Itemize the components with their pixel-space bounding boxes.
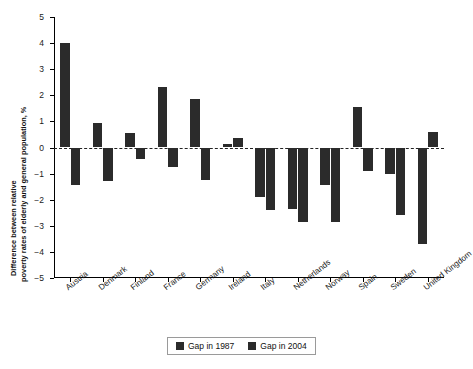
y-tick (50, 226, 54, 227)
y-tick (50, 252, 54, 253)
plot-area: 543210−1−2−3−4−5 (54, 17, 444, 278)
bar (396, 148, 406, 216)
y-tick-label: 2 (39, 90, 44, 100)
legend-label-2004: Gap in 2004 (260, 341, 306, 351)
y-tick (50, 278, 54, 279)
y-axis-title: Difference between relative poverty rate… (0, 0, 30, 290)
bar (255, 148, 265, 198)
y-tick (50, 43, 54, 44)
y-tick-label: 3 (39, 64, 44, 74)
y-tick (50, 174, 54, 175)
x-axis-label: Italy (259, 276, 276, 292)
y-tick-label: 0 (39, 143, 44, 153)
bar (418, 148, 428, 245)
y-axis-title-line-1: Difference between relative (9, 180, 18, 276)
y-axis-title-line-2: poverty rates of elderly and general pop… (19, 107, 28, 282)
x-axis-labels: AustriaDenmarkFinlandFranceGermanyIrelan… (54, 281, 444, 339)
bar (233, 138, 243, 147)
y-tick-label: 5 (39, 12, 44, 22)
chart-legend: Gap in 1987 Gap in 2004 (167, 337, 316, 355)
y-tick (50, 121, 54, 122)
bar (298, 148, 308, 222)
y-tick (50, 200, 54, 201)
bar (288, 148, 298, 209)
bar (136, 148, 146, 160)
y-tick-label: −3 (34, 221, 44, 231)
y-tick-label: 1 (39, 116, 44, 126)
bar (190, 99, 200, 147)
bar (223, 144, 233, 148)
y-tick-label: −5 (34, 273, 44, 283)
bar (125, 133, 135, 147)
bar (363, 148, 373, 171)
legend-label-1987: Gap in 1987 (188, 341, 234, 351)
bar (158, 87, 168, 147)
bar (60, 43, 70, 147)
y-tick (50, 95, 54, 96)
bar (201, 148, 211, 181)
y-tick (50, 17, 54, 18)
y-tick (50, 69, 54, 70)
bar (93, 123, 103, 148)
legend-item-1987: Gap in 1987 (176, 341, 234, 351)
legend-swatch-icon (248, 342, 256, 350)
bar (385, 148, 395, 174)
bar (103, 148, 113, 182)
y-tick-label: −4 (34, 247, 44, 257)
bar (353, 107, 363, 147)
y-tick-label: −2 (34, 195, 44, 205)
y-tick-label: 4 (39, 38, 44, 48)
legend-swatch-icon (176, 342, 184, 350)
bar (331, 148, 341, 222)
bar (168, 148, 178, 168)
bar (428, 132, 438, 148)
bar (320, 148, 330, 186)
y-tick-label: −1 (34, 169, 44, 179)
bar (266, 148, 276, 211)
bar (71, 148, 81, 186)
legend-item-2004: Gap in 2004 (248, 341, 306, 351)
